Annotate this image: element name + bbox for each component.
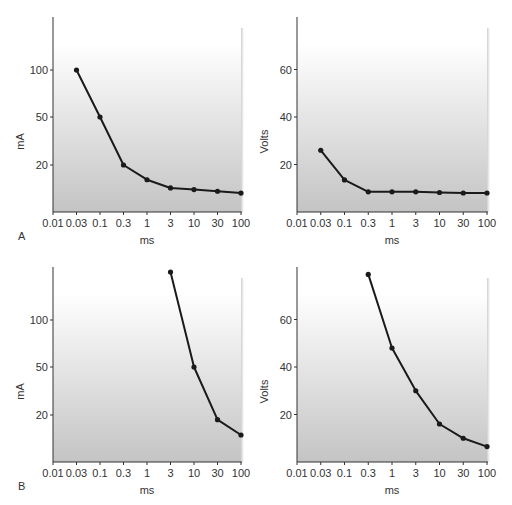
x-tick-label: 0.03: [310, 217, 331, 229]
x-axis-title: ms: [385, 234, 400, 246]
x-tick-label: 0.1: [92, 217, 107, 229]
y-tick-label: 60: [280, 314, 292, 326]
data-point: [461, 436, 466, 441]
chart-panel-a-left: 0.010.030.10.31310301002050100msmAA: [14, 17, 250, 246]
y-tick-label: 100: [30, 64, 48, 76]
data-point: [461, 190, 466, 195]
panel-letter: A: [18, 230, 26, 242]
x-tick-label: 0.1: [92, 467, 107, 479]
y-tick-label: 20: [280, 409, 292, 421]
x-tick-label: 0.3: [116, 217, 131, 229]
x-tick-label: 3: [167, 467, 173, 479]
x-tick-label: 100: [478, 217, 496, 229]
x-tick-label: 1: [389, 467, 395, 479]
data-point: [74, 67, 79, 72]
x-tick-label: 0.03: [66, 217, 87, 229]
data-point: [238, 432, 243, 437]
x-tick-label: 0.3: [361, 217, 376, 229]
x-tick-label: 100: [232, 467, 250, 479]
y-tick-label: 20: [36, 159, 48, 171]
y-tick-label: 50: [36, 111, 48, 123]
x-axis-title: ms: [385, 484, 400, 496]
x-tick-label: 30: [457, 217, 469, 229]
data-point: [215, 417, 220, 422]
x-tick-label: 0.3: [116, 467, 131, 479]
x-tick-label: 3: [413, 467, 419, 479]
x-tick-label: 0.01: [286, 467, 307, 479]
x-tick-label: 0.1: [337, 217, 352, 229]
plot-shadow: [487, 278, 490, 462]
x-tick-label: 100: [232, 217, 250, 229]
data-point: [144, 177, 149, 182]
y-axis-title: Volts: [258, 379, 270, 403]
y-tick-label: 50: [36, 361, 48, 373]
y-tick-label: 20: [280, 159, 292, 171]
chart-panel-b-left: 0.010.030.10.31310301002050100msmAB: [14, 267, 250, 496]
x-tick-label: 0.01: [42, 217, 63, 229]
plot-area: [53, 278, 241, 462]
x-tick-label: 30: [457, 467, 469, 479]
figure: 0.010.030.10.31310301002050100msmAA0.010…: [0, 0, 512, 505]
chart-panel-b-right: 0.010.030.10.3131030100204060msVolts: [258, 267, 496, 496]
x-tick-label: 10: [433, 217, 445, 229]
data-point: [484, 190, 489, 195]
y-tick-label: 60: [280, 64, 292, 76]
data-point: [413, 388, 418, 393]
plot-area: [53, 28, 241, 212]
x-axis-title: ms: [140, 234, 155, 246]
data-point: [238, 190, 243, 195]
x-tick-label: 0.01: [286, 217, 307, 229]
data-point: [366, 189, 371, 194]
x-tick-label: 10: [188, 467, 200, 479]
panel-letter: B: [18, 480, 25, 492]
x-tick-label: 100: [478, 467, 496, 479]
y-axis-title: mA: [14, 133, 26, 150]
x-tick-label: 0.03: [66, 467, 87, 479]
data-point: [168, 269, 173, 274]
data-point: [366, 272, 371, 277]
plot-area: [297, 28, 487, 212]
y-tick-label: 40: [280, 111, 292, 123]
x-tick-label: 3: [413, 217, 419, 229]
plot-shadow: [241, 28, 244, 212]
x-tick-label: 30: [211, 467, 223, 479]
data-point: [191, 364, 196, 369]
x-tick-label: 0.1: [337, 467, 352, 479]
figure-canvas: 0.010.030.10.31310301002050100msmAA0.010…: [0, 0, 512, 505]
x-tick-label: 3: [167, 217, 173, 229]
y-tick-label: 20: [36, 409, 48, 421]
data-point: [437, 421, 442, 426]
x-axis-title: ms: [140, 484, 155, 496]
chart-panel-a-right: 0.010.030.10.3131030100204060msVolts: [258, 17, 496, 246]
data-point: [97, 114, 102, 119]
data-point: [389, 345, 394, 350]
data-point: [168, 185, 173, 190]
x-tick-label: 10: [433, 467, 445, 479]
y-tick-label: 40: [280, 361, 292, 373]
x-tick-label: 30: [211, 217, 223, 229]
y-axis-title: Volts: [258, 129, 270, 153]
x-tick-label: 1: [144, 467, 150, 479]
data-point: [121, 162, 126, 167]
x-tick-label: 0.03: [310, 467, 331, 479]
data-point: [342, 177, 347, 182]
data-point: [318, 148, 323, 153]
y-tick-label: 100: [30, 314, 48, 326]
x-tick-label: 0.01: [42, 467, 63, 479]
y-axis-title: mA: [14, 383, 26, 400]
data-point: [191, 187, 196, 192]
data-point: [413, 189, 418, 194]
x-tick-label: 1: [389, 217, 395, 229]
data-point: [215, 189, 220, 194]
plot-shadow: [487, 28, 490, 212]
data-point: [484, 444, 489, 449]
data-point: [389, 189, 394, 194]
x-tick-label: 1: [144, 217, 150, 229]
x-tick-label: 0.3: [361, 467, 376, 479]
x-tick-label: 10: [188, 217, 200, 229]
data-point: [437, 190, 442, 195]
